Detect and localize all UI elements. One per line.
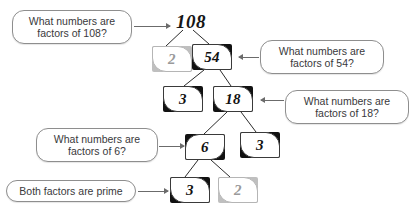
node-value-label: 18 <box>225 92 241 107</box>
factor-node-18[interactable]: 18 <box>213 86 253 112</box>
node-face: 6 <box>185 134 225 160</box>
callout-text: What numbers arefactors of 54? <box>279 45 365 70</box>
tree-edge <box>241 112 256 132</box>
node-value-label: 54 <box>204 50 220 65</box>
callout-text: What numbers arefactors of 6? <box>54 133 140 158</box>
factor-node-54[interactable]: 54 <box>192 44 232 70</box>
callout-line-1: What numbers are <box>29 15 115 28</box>
tree-edge <box>193 30 209 44</box>
root-number: 108 <box>176 12 206 31</box>
callout-c-54[interactable]: What numbers arefactors of 54? <box>260 40 384 74</box>
callout-pointer-arrow <box>239 57 259 58</box>
factor-node-2-muted[interactable]: 2 <box>218 177 258 203</box>
callout-pointer-arrow <box>134 26 170 27</box>
node-value-label: 3 <box>256 138 264 153</box>
callout-text: What numbers arefactors of 108? <box>29 15 115 40</box>
node-face: 18 <box>213 86 253 112</box>
callout-line-1: What numbers are <box>54 133 140 146</box>
callout-pointer-arrow <box>138 191 168 192</box>
tree-edge <box>185 160 198 177</box>
node-value-label: 2 <box>168 52 176 67</box>
callout-c-6[interactable]: What numbers arefactors of 6? <box>36 128 158 162</box>
callout-c-108[interactable]: What numbers arefactors of 108? <box>12 10 132 44</box>
callout-line-1: Both factors are prime <box>19 185 122 198</box>
factor-node-6[interactable]: 6 <box>185 134 225 160</box>
tree-edge <box>220 70 231 86</box>
callout-c-18[interactable]: What numbers arefactors of 18? <box>285 90 409 124</box>
tree-edge <box>211 160 230 177</box>
tree-edge <box>204 112 227 134</box>
callout-line-2: factors of 108? <box>29 27 115 40</box>
node-face: 3 <box>240 132 280 158</box>
node-face: 2 <box>152 46 192 72</box>
callout-pointer-arrow <box>261 100 284 101</box>
tree-edge <box>166 30 183 46</box>
node-value-label: 3 <box>186 183 194 198</box>
callout-text: Both factors are prime <box>19 185 122 198</box>
callout-pointer-arrow <box>159 146 184 147</box>
node-face: 54 <box>192 44 232 70</box>
callout-text: What numbers arefactors of 18? <box>304 95 390 120</box>
node-face: 3 <box>163 86 203 112</box>
factor-node-3[interactable]: 3 <box>240 132 280 158</box>
callout-c-prime[interactable]: Both factors are prime <box>6 180 136 202</box>
callout-line-2: factors of 18? <box>304 107 390 120</box>
factor-node-2-muted[interactable]: 2 <box>152 46 192 72</box>
tree-edge <box>184 70 204 86</box>
callout-line-2: factors of 6? <box>54 145 140 158</box>
node-value-label: 2 <box>234 183 242 198</box>
node-face: 2 <box>218 177 258 203</box>
factor-node-3[interactable]: 3 <box>170 177 210 203</box>
node-face: 3 <box>170 177 210 203</box>
node-value-label: 6 <box>201 140 209 155</box>
callout-line-2: factors of 54? <box>279 57 365 70</box>
factor-node-3[interactable]: 3 <box>163 86 203 112</box>
callout-line-1: What numbers are <box>279 45 365 58</box>
node-value-label: 3 <box>179 92 187 107</box>
callout-line-1: What numbers are <box>304 95 390 108</box>
